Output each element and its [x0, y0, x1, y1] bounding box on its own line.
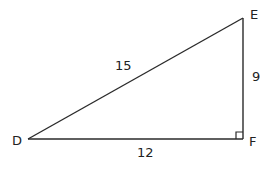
right-angle-marker-icon	[236, 132, 243, 139]
vertex-label-e: E	[250, 8, 258, 21]
side-label-de: 15	[115, 59, 132, 72]
vertex-label-f: F	[249, 135, 256, 148]
side-de	[28, 18, 243, 139]
side-label-df: 12	[137, 146, 154, 159]
side-label-ef: 9	[252, 70, 260, 83]
triangle-diagram: D E F 15 9 12	[0, 0, 267, 169]
vertex-label-d: D	[12, 134, 22, 147]
triangle-svg	[0, 0, 267, 169]
